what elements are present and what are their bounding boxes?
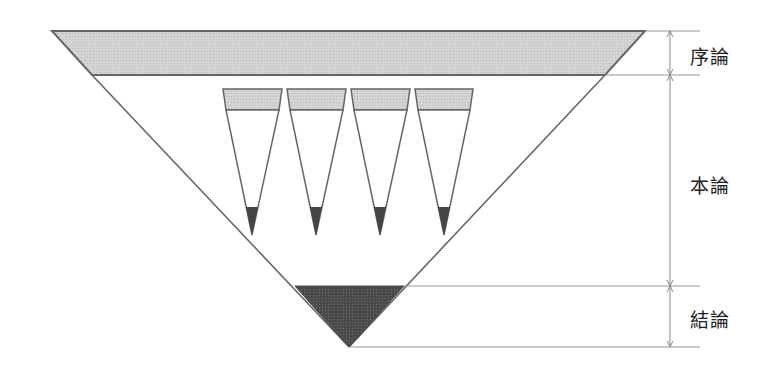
inverted-pyramid-diagram — [0, 0, 777, 365]
label-intro: 序論 — [690, 42, 730, 69]
dimension-extension-lines — [349, 31, 700, 347]
dimension-line — [667, 31, 673, 347]
label-conclusion: 結論 — [690, 305, 730, 332]
sub-argument-cones — [223, 89, 473, 235]
conclusion-triangle — [295, 286, 404, 347]
sub-cone-4 — [415, 89, 473, 235]
sub-cone-3 — [351, 89, 410, 235]
sub-cone-1 — [223, 89, 282, 235]
intro-band — [52, 31, 645, 75]
label-body: 本論 — [690, 171, 730, 198]
sub-cone-2 — [287, 89, 346, 235]
